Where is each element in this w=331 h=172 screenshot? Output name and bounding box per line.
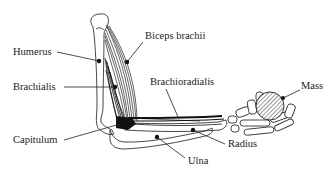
brachioradialis-muscle [128, 116, 224, 126]
humerus-point [97, 59, 101, 63]
label-capitulum: Capitulum [13, 134, 57, 146]
label-brachioradialis: Brachioradialis [150, 76, 214, 88]
label-radius: Radius [228, 138, 257, 150]
ulna-point [155, 135, 159, 139]
mass-point [281, 96, 285, 100]
label-humerus: Humerus [13, 46, 52, 58]
label-ulna: Ulna [188, 155, 208, 167]
label-mass: Mass [301, 80, 323, 92]
radius-point [191, 128, 195, 132]
label-brachialis: Brachialis [13, 81, 56, 93]
mass-circle [256, 92, 284, 120]
brachialis-point [113, 85, 117, 89]
label-biceps-brachii: Biceps brachii [145, 30, 205, 42]
biceps-point [125, 60, 129, 64]
